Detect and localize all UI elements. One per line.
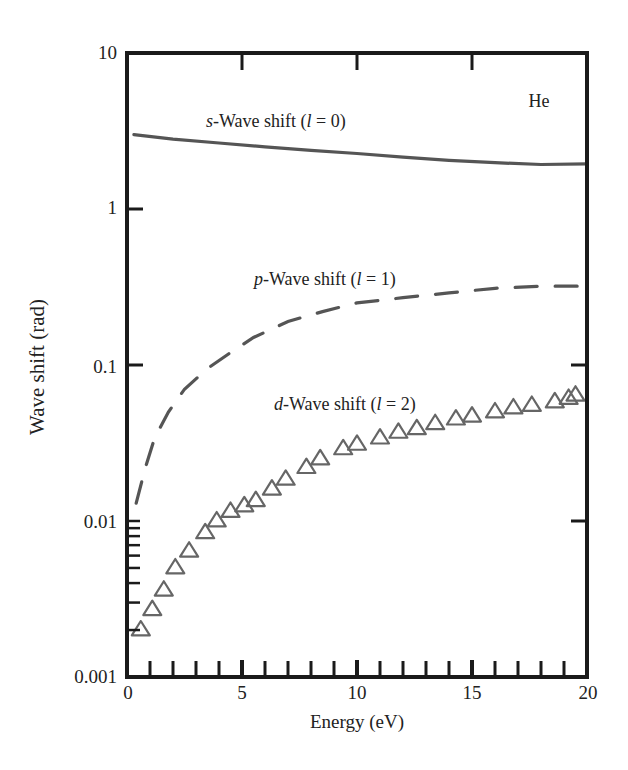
- d-wave-triangle-marker: [426, 415, 444, 429]
- d-wave-label-suffix: = 2): [382, 394, 416, 415]
- p-wave-label-prefix: p: [252, 269, 263, 289]
- d-wave-triangle-marker: [166, 559, 184, 573]
- d-wave-triangle-marker: [389, 423, 407, 437]
- d-wave-triangle-marker: [523, 397, 541, 411]
- x-tick-label-5: 5: [237, 682, 247, 703]
- y-axis-title: Wave shift (rad): [25, 299, 49, 435]
- x-tick-label-0: 0: [123, 682, 133, 703]
- plot-frame: [127, 53, 587, 677]
- y-tick-label-0.001: 0.001: [74, 666, 117, 687]
- x-axis-title: Energy (eV): [310, 711, 404, 733]
- p-wave-label-suffix: = 1): [362, 269, 396, 290]
- y-tick-label-10: 10: [98, 42, 117, 63]
- d-wave-triangle-marker: [504, 399, 522, 413]
- d-wave-triangle-marker: [408, 420, 426, 434]
- p-wave-label: p-Wave shift (l = 1): [252, 269, 396, 290]
- d-wave-triangle-marker: [277, 470, 295, 484]
- d-wave-triangle-marker: [180, 542, 198, 556]
- x-tick-label-15: 15: [463, 682, 482, 703]
- wave-shift-chart: 10 1 0.1 0.01 0.001 0 5 10 15 20 Energy …: [0, 0, 628, 770]
- d-wave-triangle-marker: [447, 410, 465, 424]
- d-wave-triangle-marker: [348, 435, 366, 449]
- d-wave-triangle-marker: [371, 429, 389, 443]
- element-label-he: He: [529, 91, 550, 111]
- s-wave-label-suffix: = 0): [312, 111, 346, 132]
- d-wave-triangle-marker: [311, 450, 329, 464]
- d-wave-triangle-marker: [463, 407, 481, 421]
- s-wave-label-text: -Wave shift (: [213, 111, 307, 132]
- d-wave-triangle-marker: [132, 621, 150, 635]
- y-tick-label-0.1: 0.1: [93, 356, 117, 377]
- s-wave-label: s-Wave shift (l = 0): [206, 111, 346, 132]
- d-wave-triangle-marker: [486, 403, 504, 417]
- y-tick-label-1: 1: [108, 197, 118, 218]
- d-wave-triangle-marker: [143, 601, 161, 615]
- axes-frame: [127, 53, 587, 677]
- d-wave-triangle-marker: [155, 581, 173, 595]
- x-tick-label-10: 10: [348, 682, 367, 703]
- x-tick-label-20: 20: [579, 682, 598, 703]
- d-wave-label: d-Wave shift (l = 2): [274, 394, 416, 415]
- s-wave-label-prefix: s: [206, 111, 213, 131]
- plot-series: [132, 135, 587, 636]
- y-tick-label-0.01: 0.01: [84, 511, 117, 532]
- d-wave-label-text: -Wave shift (: [283, 394, 377, 415]
- s-wave-curve: [134, 135, 587, 165]
- p-wave-label-text: -Wave shift (: [263, 269, 357, 290]
